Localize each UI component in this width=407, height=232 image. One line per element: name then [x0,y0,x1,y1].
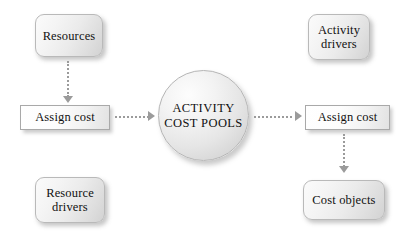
connector-line [343,134,345,167]
abc-flow-diagram: Resources Activity drivers Resource driv… [0,0,407,232]
arrowhead-down-icon [339,166,349,173]
connector-assign-cost-to-cost-objects [0,0,407,232]
